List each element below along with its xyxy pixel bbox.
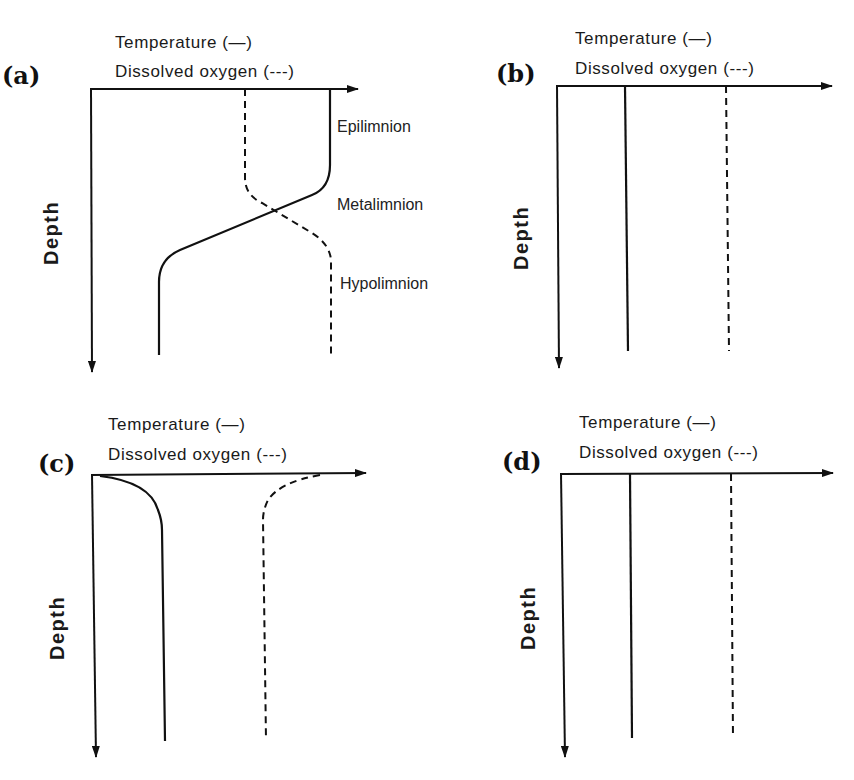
- temperature-line: [100, 476, 165, 741]
- temperature-line: [630, 474, 632, 738]
- legend-oxygen: Dissolved oxygen (---): [108, 445, 287, 464]
- y-axis-label: Depth: [510, 206, 532, 270]
- panel-label-c: (c): [38, 449, 75, 478]
- oxygen-line: [726, 86, 729, 351]
- zone-label-hypolimnion: Hypolimnion: [340, 275, 428, 292]
- panel-a: (a) Temperature (—) Dissolved oxygen (--…: [2, 33, 428, 372]
- x-axis: [91, 473, 366, 475]
- zone-label-epilimnion: Epilimnion: [337, 118, 411, 135]
- panel-label-b: (b): [496, 59, 536, 88]
- oxygen-line: [731, 474, 733, 738]
- legend-temperature: Temperature (—): [575, 29, 712, 48]
- y-axis-label: Depth: [40, 201, 62, 265]
- x-axis: [560, 473, 833, 474]
- panel-c: (c) Temperature (—) Dissolved oxygen (--…: [38, 415, 366, 757]
- zone-label-metalimnion: Metalimnion: [337, 196, 423, 213]
- y-axis-label: Depth: [46, 596, 68, 660]
- panel-d: (d) Temperature (—) Dissolved oxygen (--…: [502, 413, 833, 757]
- temperature-line: [625, 86, 628, 351]
- legend-oxygen: Dissolved oxygen (---): [115, 62, 294, 81]
- y-axis-depth: [91, 88, 92, 372]
- legend-temperature: Temperature (—): [108, 415, 245, 434]
- y-axis-depth: [561, 473, 565, 757]
- panel-label-d: (d): [502, 447, 542, 476]
- legend-oxygen: Dissolved oxygen (---): [579, 443, 758, 462]
- legend-oxygen: Dissolved oxygen (---): [575, 59, 754, 78]
- oxygen-line: [263, 475, 320, 740]
- y-axis-label: Depth: [517, 586, 539, 650]
- legend-temperature: Temperature (—): [579, 413, 716, 432]
- oxygen-line: [245, 89, 331, 355]
- y-axis-depth: [557, 85, 559, 368]
- panel-label-a: (a): [2, 61, 40, 90]
- legend-temperature: Temperature (—): [115, 33, 252, 52]
- panel-b: (b) Temperature (—) Dissolved oxygen (--…: [496, 29, 832, 368]
- lake-profiles-figure: (a) Temperature (—) Dissolved oxygen (--…: [0, 0, 854, 780]
- y-axis-depth: [92, 474, 96, 757]
